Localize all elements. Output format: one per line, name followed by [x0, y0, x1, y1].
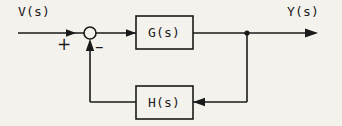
feedback-block-label: H(s) — [148, 96, 180, 109]
g-block-input-arrowhead — [126, 29, 136, 37]
forward-block-label: G(s) — [148, 26, 180, 39]
output-signal-label: Y(s) — [287, 5, 319, 18]
h-block-input-arrowhead — [193, 98, 205, 106]
summing-junction-minus-sign: – — [95, 38, 104, 55]
summing-junction-plus-sign: + — [57, 36, 71, 53]
block-diagram-canvas: V(s) Y(s) G(s) H(s) + – — [0, 0, 342, 126]
feedback-arrowhead — [86, 39, 94, 51]
input-signal-label: V(s) — [18, 5, 50, 18]
output-arrowhead — [305, 29, 318, 38]
